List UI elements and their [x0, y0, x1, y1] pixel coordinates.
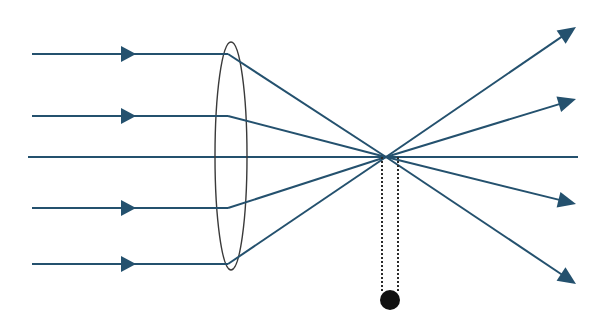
refracted-ray: [228, 116, 386, 157]
diverging-ray: [386, 35, 564, 157]
diverging-ray: [386, 157, 562, 201]
ray-diagram-canvas: [0, 0, 598, 319]
refracted-ray: [228, 157, 386, 264]
outgoing-diverging-rays: [386, 27, 576, 284]
ray-arrow-icon: [121, 108, 136, 124]
diverging-ray: [386, 103, 563, 157]
refracted-ray: [228, 54, 386, 157]
refracted-ray: [228, 157, 386, 208]
lens-diagram: [0, 0, 598, 319]
incoming-parallel-rays: [32, 46, 386, 272]
ray-arrow-icon: [121, 46, 136, 62]
ray-arrow-icon: [556, 97, 576, 112]
hanging-ball-pendulum: [380, 157, 400, 310]
ray-arrow-icon: [557, 192, 576, 208]
ray-arrow-icon: [121, 200, 136, 216]
ray-arrow-icon: [121, 256, 136, 272]
black-ball: [380, 290, 400, 310]
ray-arrow-icon: [557, 27, 576, 44]
ray-arrow-icon: [557, 267, 576, 284]
diverging-ray: [386, 157, 564, 276]
